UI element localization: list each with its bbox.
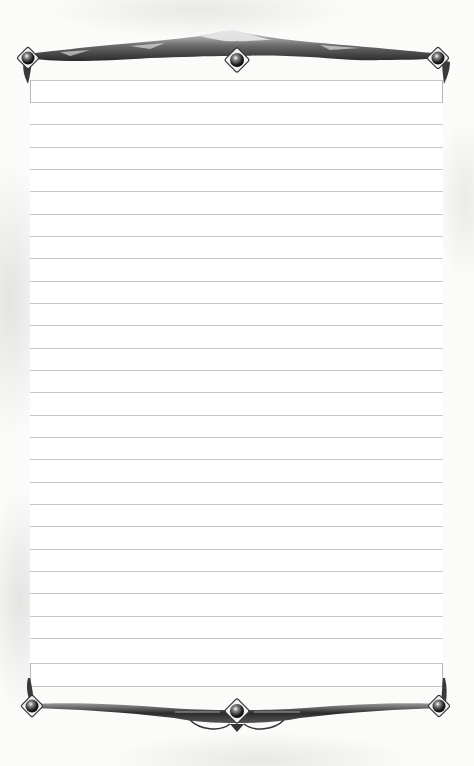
- ruled-line: [30, 214, 443, 215]
- ruled-line: [30, 459, 443, 460]
- ruled-line: [30, 593, 443, 594]
- ruled-line: [30, 392, 443, 393]
- right-gem-icon: [428, 695, 451, 718]
- bottom-ornament: [0, 676, 474, 736]
- ruled-line: [30, 370, 443, 371]
- ruled-line: [30, 281, 443, 282]
- left-gem-icon: [17, 47, 40, 70]
- ruled-line: [30, 258, 443, 259]
- ruled-line: [30, 303, 443, 304]
- ruled-line: [30, 124, 443, 125]
- ruled-line: [30, 415, 443, 416]
- ruled-line: [30, 147, 443, 148]
- left-gem-icon: [21, 695, 44, 718]
- ruled-line: [30, 348, 443, 349]
- ruled-line: [30, 191, 443, 192]
- ruled-line: [30, 325, 443, 326]
- ruled-line: [30, 571, 443, 572]
- footer-box-top-rule: [30, 663, 443, 664]
- ruled-line: [30, 638, 443, 639]
- ruled-line: [30, 526, 443, 527]
- top-ornament: [0, 30, 474, 90]
- ruled-line: [30, 482, 443, 483]
- ruled-line: [30, 236, 443, 237]
- ruled-line: [30, 616, 443, 617]
- header-box-bottom-rule: [30, 102, 443, 103]
- ruled-line: [30, 549, 443, 550]
- writing-area[interactable]: [30, 80, 443, 686]
- ruled-line: [30, 169, 443, 170]
- ruled-line: [30, 437, 443, 438]
- ruled-line: [30, 504, 443, 505]
